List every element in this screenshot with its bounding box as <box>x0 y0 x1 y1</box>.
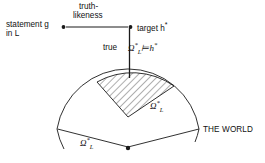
world-apex-dot <box>126 146 130 150</box>
omega-outer-subscript: L <box>90 143 94 150</box>
world-arc-right-tail <box>195 129 199 142</box>
true-label: true <box>103 44 117 53</box>
omega-outer-label: Ω*L <box>80 137 93 151</box>
entailment-h-star: * <box>154 41 157 48</box>
target-star: * <box>165 21 168 28</box>
target-label-text: target h <box>137 24 165 33</box>
world-right-radius <box>128 129 199 147</box>
omega-inner-label: Ω*L <box>150 100 163 114</box>
truthlikeness-label-line2: likeness <box>73 12 103 21</box>
statement-dot <box>62 25 66 29</box>
world-arc-left-tail <box>57 129 64 149</box>
statement-language-label: in L <box>6 30 19 39</box>
truthlikeness-diagram: statement g in L truth- likeness target … <box>0 0 265 163</box>
omega-inner-subscript: L <box>160 106 164 113</box>
target-label: target h* <box>137 21 168 33</box>
entailment-formula: Ω*L⊨h* <box>128 42 157 56</box>
inner-sector-hatching <box>85 70 185 125</box>
the-world-label: THE WORLD <box>203 126 253 135</box>
